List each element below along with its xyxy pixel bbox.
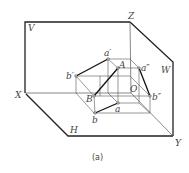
label-Z: Z (127, 11, 135, 21)
label-b-prime: b′ (66, 71, 74, 81)
label-A: A (118, 60, 126, 70)
label-a-dprime: a″ (141, 63, 150, 73)
label-V: V (28, 23, 36, 33)
label-O: O (130, 84, 138, 94)
label-b-dprime: b″ (152, 92, 162, 102)
label-B: B (85, 94, 93, 104)
label-b: b (92, 115, 98, 125)
projection-planes-frame (25, 22, 173, 136)
segment-a-prime-b-prime (76, 59, 108, 76)
label-H: H (69, 125, 78, 135)
label-a: a (115, 104, 120, 114)
axes (25, 22, 173, 136)
label-X: X (14, 90, 22, 100)
projection-diagram: V Z W X H Y O a′ b′ A a″ B b″ a b (a) (0, 0, 189, 173)
label-a-prime: a′ (104, 48, 111, 58)
figure-caption: (a) (92, 153, 103, 162)
label-W: W (161, 65, 171, 75)
label-Y: Y (175, 138, 182, 148)
segment-AB (94, 68, 118, 96)
